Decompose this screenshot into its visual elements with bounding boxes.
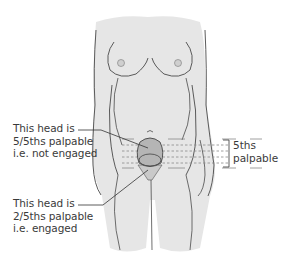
label-engaged-line1: This head is — [13, 197, 93, 210]
right-nipple — [175, 60, 182, 67]
diagram-canvas: This head is 5/5ths palpable i.e. not en… — [0, 0, 282, 269]
label-not-engaged-line1: This head is — [13, 122, 97, 135]
fetal-head — [137, 138, 163, 167]
label-engaged: This head is 2/5ths palpable i.e. engage… — [13, 197, 93, 235]
label-fifths-line1: 5ths — [233, 139, 278, 152]
label-fifths-line2: palpable — [233, 152, 278, 165]
label-engaged-line2: 2/5ths palpable — [13, 210, 93, 223]
label-not-engaged-line3: i.e. not engaged — [13, 147, 97, 160]
label-engaged-line3: i.e. engaged — [13, 222, 93, 235]
left-nipple — [118, 60, 125, 67]
label-not-engaged: This head is 5/5ths palpable i.e. not en… — [13, 122, 97, 160]
label-not-engaged-line2: 5/5ths palpable — [13, 135, 97, 148]
label-fifths-palpable: 5ths palpable — [233, 139, 278, 165]
